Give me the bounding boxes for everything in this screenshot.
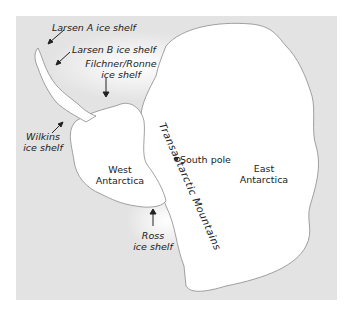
ross-label-line1: Ross [129, 230, 177, 241]
east-antarctica-label-line1: East [234, 163, 294, 174]
ross-label-line2: ice shelf [129, 241, 177, 252]
east-antarctica-label-line2: Antarctica [234, 174, 294, 185]
wilkins-label-line2: ice shelf [20, 142, 66, 153]
larsen-a-label: Larsen A ice shelf [52, 22, 136, 33]
filchner-ronne-label-line1: Filchner/Ronne [78, 58, 164, 69]
east-antarctica-label: East Antarctica [234, 163, 294, 185]
filchner-ronne-label: Filchner/Ronne ice shelf [78, 58, 164, 80]
larsen-b-label: Larsen B ice shelf [72, 44, 156, 55]
wilkins-label: Wilkins ice shelf [20, 131, 66, 153]
map-frame: Larsen A ice shelf Larsen B ice shelf Fi… [16, 16, 337, 300]
south-pole-label: South pole [180, 154, 231, 165]
ross-label: Ross ice shelf [129, 230, 177, 252]
west-antarctica-label-line2: Antarctica [90, 175, 150, 186]
west-antarctica-label-line1: West [90, 164, 150, 175]
wilkins-label-line1: Wilkins [20, 131, 66, 142]
filchner-ronne-label-line2: ice shelf [78, 69, 164, 80]
west-antarctica-label: West Antarctica [90, 164, 150, 186]
